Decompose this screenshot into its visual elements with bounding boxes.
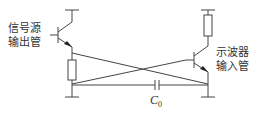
left-emitter-arrow-icon [64,41,72,47]
left-transistor-label-line2: 输出管 [8,36,41,49]
left-transistor-label-line1: 信号源 [8,22,41,35]
left-emitter-resistor [68,60,76,80]
right-collector-resistor [204,15,212,36]
capacitor-label: C0 [150,93,162,109]
left-emitter-lead [58,38,72,60]
cross-wire-2 [72,60,186,84]
right-collector-lead [194,36,208,56]
right-transistor-label-line1: 示波器 [216,46,249,59]
capacitor-symbol: C [150,93,158,107]
left-collector-lead [58,10,72,32]
right-transistor-label-line2: 输入管 [216,60,249,73]
right-transistor [186,10,215,97]
capacitor-subscript: 0 [158,100,162,109]
right-emitter-arrow-icon [200,66,208,72]
